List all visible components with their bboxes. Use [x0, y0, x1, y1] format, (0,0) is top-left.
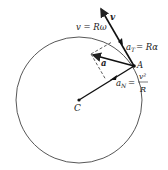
point-a-dot: [132, 64, 136, 68]
normal-numerator: v²: [139, 72, 146, 81]
dashed-line-tangent: [91, 42, 112, 54]
circular-motion-diagram: v v = Rω a T = Rα a A a N = v² R C: [0, 0, 168, 170]
acceleration-symbol: a: [101, 58, 107, 68]
point-a-label: A: [136, 60, 143, 70]
normal-subscript: N: [120, 82, 127, 89]
normal-denominator: R: [139, 85, 146, 94]
velocity-symbol: v: [110, 12, 116, 22]
center-dot: [77, 98, 80, 101]
normal-equals: =: [128, 78, 135, 88]
velocity-formula: v = Rω: [76, 22, 107, 32]
tangential-rhs: = Rα: [136, 42, 158, 52]
center-label: C: [74, 103, 81, 113]
